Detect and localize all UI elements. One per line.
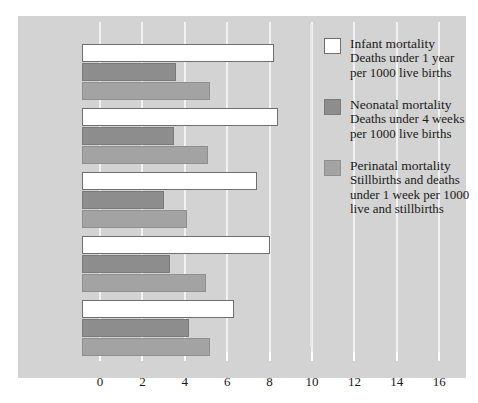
chart-figure: United KingdomEnglandWalesScotlandNorthe… [18,16,466,378]
bar-neonatal [82,63,176,81]
legend-swatch-neonatal [324,99,341,115]
x-tick-label: 8 [255,374,285,390]
legend-title: Perinatal mortality [350,158,476,173]
chart-legend: Infant mortalityDeaths under 1 year per … [324,36,476,234]
category-label: England [0,116,78,130]
legend-title: Infant mortality [350,36,476,51]
legend-entry: Infant mortalityDeaths under 1 year per … [324,36,476,80]
bar-infant [82,236,270,254]
legend-divider [310,24,312,346]
legend-title: Neonatal mortality [350,97,476,112]
legend-description: Stillbirths and deaths under 1 week per … [350,173,476,217]
x-tick-label: 12 [339,374,369,390]
x-tick-label: 10 [297,374,327,390]
legend-description: Deaths under 4 weeks per 1000 live birth… [350,112,476,141]
bar-perinatal [82,274,206,292]
bar-perinatal [82,210,187,228]
bar-neonatal [82,255,170,273]
x-tick-label: 0 [85,374,115,390]
legend-entry: Neonatal mortalityDeaths under 4 weeks p… [324,97,476,141]
x-tick-label: 16 [424,374,454,390]
bar-infant [82,108,278,126]
category-label: Northern Ireland [0,300,78,327]
bar-group: Scotland [82,236,460,293]
bar-neonatal [82,319,189,337]
x-tick-label: 2 [127,374,157,390]
bar-infant [82,44,274,62]
x-tick-label: 4 [170,374,200,390]
legend-swatch-infant [324,38,341,54]
category-label: Scotland [0,244,78,258]
x-tick-label: 6 [212,374,242,390]
bar-perinatal [82,338,210,356]
legend-description: Deaths under 1 year per 1000 live births [350,51,476,80]
legend-swatch-perinatal [324,160,341,176]
category-label: United Kingdom [0,44,78,71]
bar-infant [82,172,257,190]
bar-perinatal [82,82,210,100]
legend-entry: Perinatal mortalityStillbirths and death… [324,158,476,217]
bar-infant [82,300,234,318]
bar-neonatal [82,127,174,145]
bar-perinatal [82,146,208,164]
bar-neonatal [82,191,164,209]
category-label: Wales [0,180,78,194]
bar-group: Northern Ireland [82,300,460,357]
x-tick-label: 14 [382,374,412,390]
